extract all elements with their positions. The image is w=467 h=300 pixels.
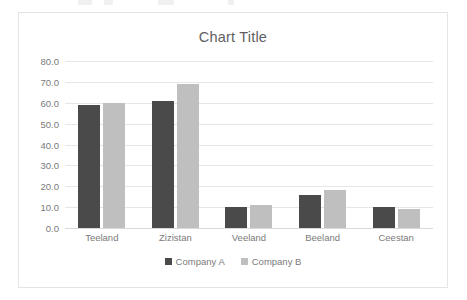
legend-item[interactable]: Company A <box>165 256 225 267</box>
bar-group <box>359 61 433 228</box>
legend-swatch-icon <box>241 258 248 265</box>
y-axis-tick-label: 40.0 <box>41 139 60 150</box>
x-axis-category-label: Teeland <box>65 232 139 243</box>
bar[interactable] <box>177 84 199 228</box>
legend-label: Company A <box>176 256 225 267</box>
bar-group <box>286 61 360 228</box>
legend-item[interactable]: Company B <box>241 256 302 267</box>
y-axis-tick-label: 30.0 <box>41 160 60 171</box>
bar-series-area <box>65 61 433 228</box>
legend-label: Company B <box>252 256 302 267</box>
gridline <box>65 228 433 229</box>
y-axis-tick-label: 60.0 <box>41 97 60 108</box>
y-axis-tick-label: 20.0 <box>41 181 60 192</box>
bar[interactable] <box>78 105 100 228</box>
y-axis-tick-label: 0.0 <box>46 223 59 234</box>
bar[interactable] <box>225 207 247 228</box>
x-axis-category-label: Veeland <box>212 232 286 243</box>
bar-group <box>212 61 286 228</box>
y-axis-tick-label: 50.0 <box>41 118 60 129</box>
y-axis-tick-label: 80.0 <box>41 56 60 67</box>
bar-group <box>65 61 139 228</box>
chart-container[interactable]: Chart Title 80.070.060.050.040.030.020.0… <box>18 12 448 288</box>
bar[interactable] <box>398 209 420 228</box>
chart-title: Chart Title <box>19 29 447 45</box>
x-axis-category-label: Beeland <box>286 232 360 243</box>
y-axis-tick-label: 70.0 <box>41 76 60 87</box>
bar[interactable] <box>250 205 272 228</box>
chart-legend[interactable]: Company ACompany B <box>19 256 447 267</box>
bar-group <box>139 61 213 228</box>
y-axis-tick-label: 10.0 <box>41 202 60 213</box>
bar[interactable] <box>324 190 346 228</box>
bar[interactable] <box>299 195 321 228</box>
bar[interactable] <box>103 103 125 228</box>
bar[interactable] <box>373 207 395 228</box>
legend-swatch-icon <box>165 258 172 265</box>
page-fragment-strip <box>0 0 467 10</box>
x-axis-category-label: Ceestan <box>359 232 433 243</box>
bar[interactable] <box>152 101 174 228</box>
x-axis-category-labels: TeelandZizistanVeelandBeelandCeestan <box>65 232 433 243</box>
plot-area: 80.070.060.050.040.030.020.010.00.0 <box>65 61 433 228</box>
x-axis-category-label: Zizistan <box>139 232 213 243</box>
